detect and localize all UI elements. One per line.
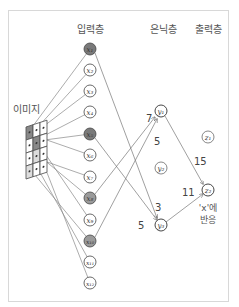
output-node-z2: z₂ xyxy=(202,184,214,196)
hidden-to-output-edges xyxy=(165,116,203,222)
weight-x8-y1: 7 xyxy=(146,113,152,124)
input-node-x11: x₁₁ xyxy=(84,256,96,268)
svg-text:x₅: x₅ xyxy=(87,131,94,139)
image-label: 이미지 xyxy=(13,104,40,115)
svg-text:x₆: x₆ xyxy=(87,152,94,160)
input-node-x8: x₈ xyxy=(84,192,96,204)
svg-text:x₈: x₈ xyxy=(87,195,94,203)
weight-x5-y3: 5 xyxy=(138,220,144,231)
svg-text:x₃: x₃ xyxy=(87,88,94,96)
input-node-x3: x₃ xyxy=(84,85,96,97)
input-node-x1: x₁ xyxy=(84,43,96,55)
input-nodes: x₁ x₂ x₃ x₄ x₅ x₆ x₇ x₈ x₉ x₁₀ x₁₁ x₁₂ xyxy=(84,43,96,289)
svg-text:x₉: x₉ xyxy=(87,217,94,225)
input-node-x10: x₁₀ xyxy=(84,235,96,247)
weight-y3-z2: 11 xyxy=(182,187,195,198)
hidden-node-y2: y₂ xyxy=(155,162,167,174)
input-node-x4: x₄ xyxy=(84,106,96,118)
svg-text:y₁: y₁ xyxy=(157,108,165,116)
input-node-x2: x₂ xyxy=(84,64,96,76)
svg-text:x₁₀: x₁₀ xyxy=(86,238,95,245)
neural-network-diagram: 입력층 은닉층 출력층 이미지 xyxy=(0,0,239,307)
svg-text:z₁: z₁ xyxy=(204,134,212,142)
svg-text:x₄: x₄ xyxy=(87,109,94,117)
output-layer-label: 출력층 xyxy=(195,24,222,35)
svg-text:x₁₁: x₁₁ xyxy=(86,259,94,266)
weight-y1-z2: 15 xyxy=(194,156,207,167)
svg-text:x₇: x₇ xyxy=(87,174,94,182)
output-note-line2: 반응 xyxy=(200,215,216,225)
input-image-grid xyxy=(26,120,47,179)
weight-x10-y1: 5 xyxy=(154,136,160,147)
input-node-x9: x₉ xyxy=(84,214,96,226)
hidden-node-y3: y₃ xyxy=(155,219,167,231)
hidden-layer-label: 은닉층 xyxy=(150,24,177,35)
svg-text:y₂: y₂ xyxy=(157,165,165,173)
input-node-x5: x₅ xyxy=(84,128,96,140)
input-node-x12: x₁₂ xyxy=(84,277,96,289)
output-note-line1: 'x'에 xyxy=(199,203,217,213)
weight-x1-y3: 3 xyxy=(155,202,161,213)
svg-text:x₂: x₂ xyxy=(87,67,94,75)
svg-text:z₂: z₂ xyxy=(204,187,212,195)
input-node-x6: x₆ xyxy=(84,149,96,161)
input-node-x7: x₇ xyxy=(84,171,96,183)
svg-text:x₁: x₁ xyxy=(87,46,94,54)
input-to-hidden-edges xyxy=(95,53,157,237)
input-layer-label: 입력층 xyxy=(77,23,104,35)
svg-text:x₁₂: x₁₂ xyxy=(86,280,95,287)
output-node-z1: z₁ xyxy=(202,131,214,143)
hidden-node-y1: y₁ xyxy=(155,105,167,117)
svg-text:y₃: y₃ xyxy=(157,222,165,230)
